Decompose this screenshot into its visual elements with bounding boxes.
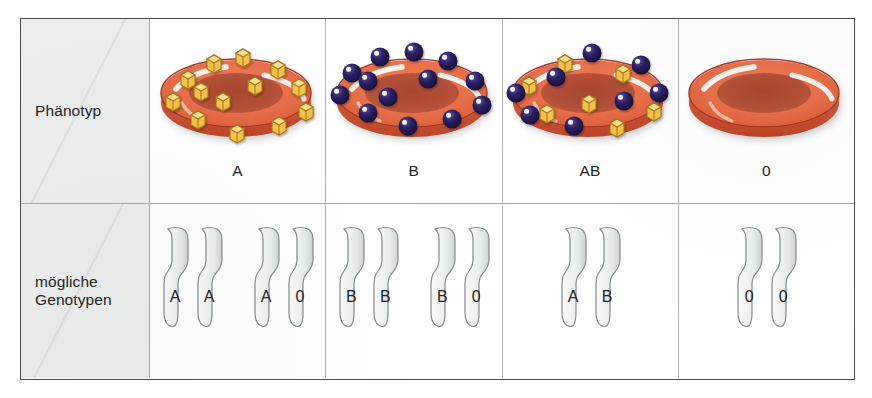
red-blood-cell-without-antigens-icon	[679, 19, 854, 167]
phenotype-label-b: B	[409, 163, 420, 179]
row-label-genotype-line2: Genotypen	[35, 291, 112, 309]
genotype-pair-ab: A B	[558, 226, 623, 330]
red-blood-cell-with-a-antigens-icon	[150, 19, 325, 167]
row-label-genotype-text: mögliche Genotypen	[35, 273, 112, 310]
row-label-genotype: mögliche Genotypen	[21, 204, 150, 378]
chromosome-icon: 0	[285, 226, 316, 330]
allele-label: A	[160, 288, 191, 306]
phenotype-label-ab: AB	[579, 163, 600, 179]
genotype-cell-0: 0 0	[679, 204, 854, 378]
chromosome-icon: B	[427, 226, 458, 330]
genotype-cell-ab: A B	[503, 204, 679, 378]
allele-label: 0	[461, 288, 492, 306]
red-blood-cell-with-ab-antigens-icon	[503, 19, 678, 167]
chromosome-icon: A	[558, 226, 589, 330]
phenotype-label-a: A	[232, 163, 243, 179]
chromosome-icon: A	[251, 226, 282, 330]
chromosome-icon: B	[336, 226, 367, 330]
row-label-genotype-line1: mögliche	[35, 273, 112, 291]
blood-group-figure: Phänotyp	[20, 18, 855, 380]
allele-label: B	[336, 288, 367, 306]
phenotype-cell-0: 0	[679, 19, 854, 203]
chromosome-icon: 0	[768, 226, 799, 330]
genotype-row: mögliche Genotypen A A A	[21, 203, 854, 378]
allele-label: A	[558, 288, 589, 306]
allele-label: A	[194, 288, 225, 306]
red-blood-cell-with-b-antigens-icon	[326, 19, 501, 167]
allele-label: A	[251, 288, 282, 306]
allele-label: B	[592, 288, 623, 306]
genotype-pair-00: 0 0	[734, 226, 799, 330]
chromosome-icon: 0	[461, 226, 492, 330]
chromosome-icon: B	[370, 226, 401, 330]
genotype-pair-aa: A A	[160, 226, 225, 330]
genotype-cell-a: A A A 0	[150, 204, 326, 378]
genotype-pair-a0: A 0	[251, 226, 316, 330]
allele-label: 0	[285, 288, 316, 306]
phenotype-cell-a: A	[150, 19, 326, 203]
phenotype-label-0: 0	[762, 163, 771, 179]
genotype-pair-bb: B B	[336, 226, 401, 330]
phenotype-row: Phänotyp	[21, 19, 854, 203]
row-label-phenotype: Phänotyp	[21, 19, 150, 203]
chromosome-icon: A	[194, 226, 225, 330]
allele-label: B	[370, 288, 401, 306]
genotype-pair-b0: B 0	[427, 226, 492, 330]
genotype-cell-b: B B B 0	[326, 204, 502, 378]
allele-label: 0	[734, 288, 765, 306]
allele-label: B	[427, 288, 458, 306]
phenotype-cell-b: B	[326, 19, 502, 203]
row-label-phenotype-text: Phänotyp	[35, 102, 101, 120]
phenotype-cell-ab: AB	[503, 19, 679, 203]
chromosome-icon: A	[160, 226, 191, 330]
chromosome-icon: B	[592, 226, 623, 330]
allele-label: 0	[768, 288, 799, 306]
chromosome-icon: 0	[734, 226, 765, 330]
